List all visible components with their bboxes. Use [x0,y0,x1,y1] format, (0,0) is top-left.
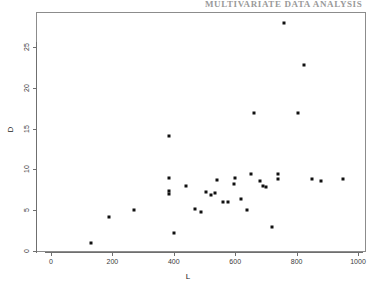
data-point [252,112,255,115]
x-axis-title: L [0,272,376,281]
data-point [258,179,261,182]
x-tick-mark [112,253,113,256]
y-tick-mark [33,47,36,48]
data-point [215,179,218,182]
x-tick-label: 800 [291,258,303,266]
data-point [246,209,249,212]
y-tick-mark [33,210,36,211]
y-tick-label: 20 [23,83,31,93]
y-tick-mark [33,129,36,130]
y-axis-title: D [6,124,15,136]
data-point [341,178,344,181]
x-axis-line [45,252,363,253]
page-running-head: MULTIVARIATE DATA ANALYSIS [205,0,373,7]
data-point [108,215,111,218]
x-tick-mark [51,253,52,256]
x-tick-label: 200 [107,258,119,266]
data-point [283,22,286,25]
data-point [277,173,280,176]
data-point [303,63,306,66]
x-tick-label: 0 [49,258,53,266]
data-point [167,192,170,195]
data-point [277,178,280,181]
x-tick-mark [358,253,359,256]
data-point [168,134,171,137]
x-tick-label: 1000 [350,258,366,266]
data-point [297,112,300,115]
y-tick-mark [33,169,36,170]
y-axis-line [36,42,37,253]
y-tick-mark [33,251,36,252]
data-point [168,176,171,179]
data-point [240,197,243,200]
data-point [221,201,224,204]
data-point [172,232,175,235]
y-tick-label: 15 [23,124,31,134]
data-point [264,186,267,189]
data-point [132,209,135,212]
data-point [209,193,212,196]
y-tick-label: 5 [23,205,31,215]
y-tick-mark [33,88,36,89]
data-point [249,173,252,176]
data-point [200,210,203,213]
data-point [185,184,188,187]
data-point [89,241,92,244]
scatter-plot-area [36,12,366,252]
data-point [205,191,208,194]
data-point [226,201,229,204]
x-tick-mark [297,253,298,256]
x-tick-label: 400 [168,258,180,266]
x-tick-mark [235,253,236,256]
y-tick-label: 0 [23,246,31,256]
data-point [310,178,313,181]
data-point [234,176,237,179]
x-tick-label: 600 [229,258,241,266]
data-point [214,192,217,195]
data-point [320,179,323,182]
x-tick-mark [174,253,175,256]
data-point [271,225,274,228]
y-tick-label: 25 [23,42,31,52]
data-point [194,207,197,210]
y-tick-label: 10 [23,164,31,174]
data-point [232,183,235,186]
